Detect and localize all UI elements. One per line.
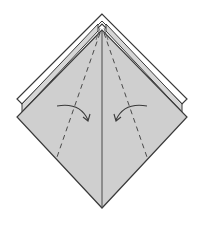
origami-diagram: [0, 0, 208, 226]
origami-kite-fold-illustration: [0, 0, 208, 226]
